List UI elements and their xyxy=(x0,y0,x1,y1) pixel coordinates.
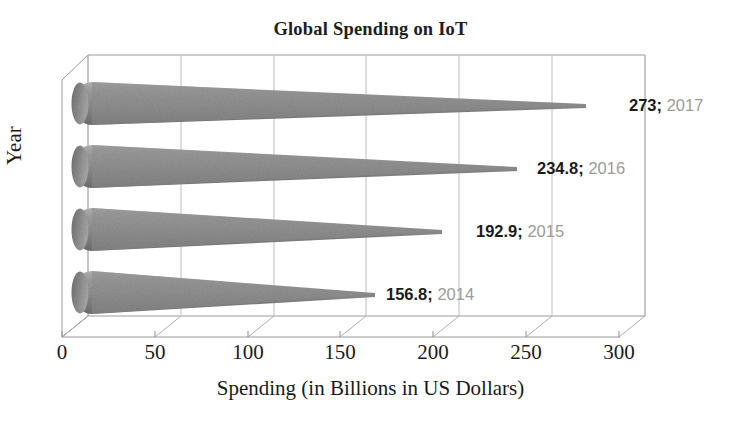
x-tick-200: 200 xyxy=(417,340,449,365)
data-label-2014-year: 2014 xyxy=(437,285,474,303)
data-label-2015: 192.9; 2015 xyxy=(476,223,564,240)
x-axis-ticks xyxy=(62,331,619,337)
x-tick-150: 150 xyxy=(324,340,356,365)
bar-2014 xyxy=(72,271,376,314)
x-axis-title: Spending (in Billions in US Dollars) xyxy=(0,376,741,401)
data-label-2015-value: 192.9 xyxy=(476,222,517,240)
data-label-2015-year: 2015 xyxy=(527,222,564,240)
plot-floor-gridlines xyxy=(62,316,645,337)
data-label-2016-value: 234.8 xyxy=(537,159,578,177)
data-label-2016: 234.8; 2016 xyxy=(537,160,625,177)
data-label-2014-value: 156.8 xyxy=(386,285,427,303)
data-label-2014: 156.8; 2014 xyxy=(386,286,474,303)
bar-2015 xyxy=(72,208,443,251)
data-label-2016-year: 2016 xyxy=(588,159,625,177)
data-label-2017-separator: ; xyxy=(657,96,663,114)
data-label-2014-separator: ; xyxy=(427,285,433,303)
x-tick-250: 250 xyxy=(510,340,542,365)
data-label-2016-separator: ; xyxy=(578,159,584,177)
chart-container: Global Spending on IoT xyxy=(0,0,741,427)
bar-2017 xyxy=(72,82,587,125)
data-label-2017: 273; 2017 xyxy=(629,97,703,114)
x-tick-300: 300 xyxy=(603,340,635,365)
x-tick-0: 0 xyxy=(57,340,68,365)
bar-2016 xyxy=(72,145,518,188)
data-label-2015-separator: ; xyxy=(517,222,523,240)
x-tick-50: 50 xyxy=(145,340,166,365)
y-axis-title: Year xyxy=(2,126,27,165)
x-tick-100: 100 xyxy=(232,340,264,365)
data-label-2017-value: 273 xyxy=(629,96,657,114)
data-label-2017-year: 2017 xyxy=(667,96,704,114)
